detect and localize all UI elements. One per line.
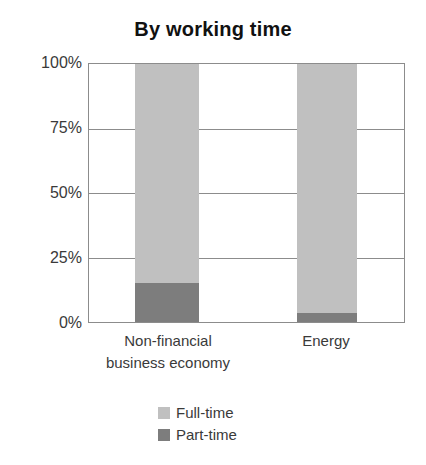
bar-segment-part-time[interactable] bbox=[135, 283, 199, 322]
chart-container: By working time 100% 75% 50% 25% 0% Non-… bbox=[0, 0, 426, 465]
bar-segment-full-time[interactable] bbox=[297, 64, 357, 313]
y-tick-label-50: 50% bbox=[4, 184, 82, 202]
x-label-line: Non-financial bbox=[98, 330, 238, 352]
legend-item-full-time[interactable]: Full-time bbox=[158, 404, 268, 421]
plot-area bbox=[88, 63, 405, 323]
legend-item-part-time[interactable]: Part-time bbox=[158, 426, 268, 443]
y-tick-label-0: 0% bbox=[4, 314, 82, 332]
bar-segment-full-time[interactable] bbox=[135, 64, 199, 283]
legend-label-full-time: Full-time bbox=[176, 404, 234, 421]
legend-swatch-full-time-icon bbox=[158, 407, 170, 419]
y-tick-label-100: 100% bbox=[4, 54, 82, 72]
x-label-line: Energy bbox=[266, 330, 386, 352]
y-axis: 100% 75% 50% 25% 0% bbox=[0, 63, 82, 323]
bar-non-financial-business-economy[interactable] bbox=[135, 64, 199, 322]
bar-energy[interactable] bbox=[297, 64, 357, 322]
bar-segment-part-time[interactable] bbox=[297, 313, 357, 322]
x-label-line: business economy bbox=[98, 352, 238, 374]
x-axis: Non-financial business economy Energy bbox=[88, 330, 405, 390]
chart-title: By working time bbox=[0, 18, 426, 41]
legend-swatch-part-time-icon bbox=[158, 429, 170, 441]
legend-label-part-time: Part-time bbox=[176, 426, 237, 443]
x-label-energy: Energy bbox=[266, 330, 386, 352]
y-tick-label-75: 75% bbox=[4, 119, 82, 137]
y-tick-label-25: 25% bbox=[4, 249, 82, 267]
x-label-non-financial-business-economy: Non-financial business economy bbox=[98, 330, 238, 374]
chart-legend: Full-time Part-time bbox=[0, 404, 426, 443]
